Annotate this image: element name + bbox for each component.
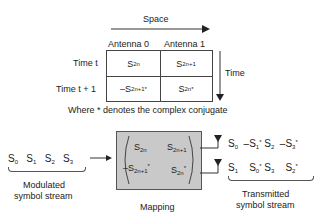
input-arrow-icon [90,154,112,162]
row-label-time-t-plus-1: Time t + 1 [56,84,96,94]
antenna-0-icon [214,135,222,142]
matrix-12: S2n+1 [167,142,187,153]
matrix-21: –S2n+1* [123,163,150,174]
output-label-line2: symbol stream [236,200,295,210]
space-label: Space [143,14,169,24]
antenna-1-icon [214,159,222,166]
cell-t-ant0: S2n [107,51,161,77]
time-arrow-icon [215,50,225,102]
cell-t1-ant1: S2n* [160,76,213,102]
cell-t-ant1: S2n+1 [160,51,213,77]
output-label-line1: Transmitted [242,189,289,199]
input-brace [8,167,86,172]
input-label-line2: symbol stream [14,191,73,201]
antenna-connectors [200,135,226,181]
right-paren-icon [188,135,198,185]
matrix-22: S2n* [171,165,186,176]
row-label-time-t: Time t [73,58,98,68]
antenna-1-stream: S1 S0* S3 S2* [228,162,298,174]
conjugate-note: Where * denotes the complex conjugate [68,105,228,115]
cell-t1-ant0: –S2n+1* [107,76,161,102]
left-paren-icon [120,135,130,185]
mapping-label: Mapping [140,202,175,212]
input-symbol-stream: S0 S1 S2 S3 [8,153,73,165]
space-arrow-icon [110,24,210,34]
space-time-grid: S2n S2n+1 –S2n+1* S2n* [106,50,213,102]
input-label-line1: Modulated [23,180,65,190]
matrix-11: S2n [134,142,147,153]
time-label: Time [225,68,245,78]
antenna-0-stream: S0 –S1* S2 –S3* [228,138,298,150]
column-header-antenna-1: Antenna 1 [164,39,205,49]
mapping-box: S2n S2n+1 –S2n+1* S2n* [116,131,202,190]
column-header-antenna-0: Antenna 0 [108,39,149,49]
output-brace [228,176,314,181]
